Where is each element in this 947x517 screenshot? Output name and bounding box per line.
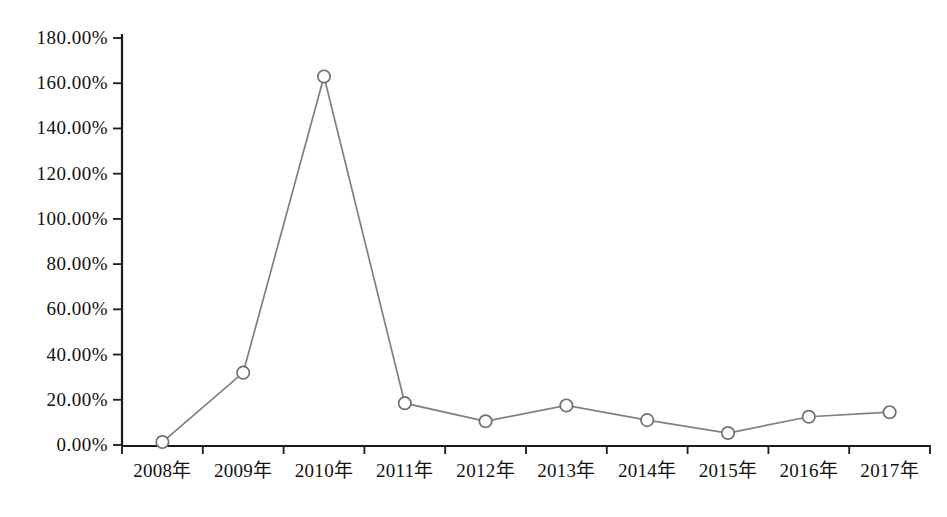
- y-tick-label: 80.00%: [46, 254, 108, 273]
- y-tick-label: 40.00%: [46, 345, 108, 364]
- data-point-marker: [479, 415, 491, 427]
- data-point-marker: [560, 399, 572, 411]
- data-point-marker: [156, 436, 168, 448]
- x-tick-label: 2009年: [203, 461, 284, 480]
- data-point-marker: [722, 427, 734, 439]
- scan-artifact: [235, 498, 635, 514]
- data-point-marker: [803, 411, 815, 423]
- y-tick-marks: [113, 38, 122, 445]
- data-point-marker: [237, 366, 249, 378]
- x-tick-label: 2008年: [122, 461, 203, 480]
- chart-canvas: [0, 0, 947, 517]
- y-tick-label: 180.00%: [36, 28, 108, 47]
- x-tick-label: 2017年: [849, 461, 930, 480]
- y-tick-label: 20.00%: [46, 390, 108, 409]
- y-tick-label: 120.00%: [36, 164, 108, 183]
- data-point-marker: [399, 397, 411, 409]
- x-tick-label: 2010年: [284, 461, 365, 480]
- x-tick-label: 2013年: [526, 461, 607, 480]
- data-point-marker: [318, 70, 330, 82]
- y-tick-label: 100.00%: [36, 209, 108, 228]
- x-tick-label: 2016年: [768, 461, 849, 480]
- data-point-marker: [641, 414, 653, 426]
- series-line: [162, 76, 889, 442]
- y-tick-label: 60.00%: [46, 299, 108, 318]
- x-tick-label: 2012年: [445, 461, 526, 480]
- y-tick-label: 160.00%: [36, 73, 108, 92]
- x-tick-label: 2014年: [607, 461, 688, 480]
- series-markers: [156, 70, 896, 448]
- x-tick-label: 2015年: [688, 461, 769, 480]
- x-tick-label: 2011年: [364, 461, 445, 480]
- y-tick-label: 140.00%: [36, 118, 108, 137]
- y-tick-label: 0.00%: [56, 435, 108, 454]
- line-chart: 0.00%20.00%40.00%60.00%80.00%100.00%120.…: [0, 0, 947, 517]
- data-point-marker: [883, 406, 895, 418]
